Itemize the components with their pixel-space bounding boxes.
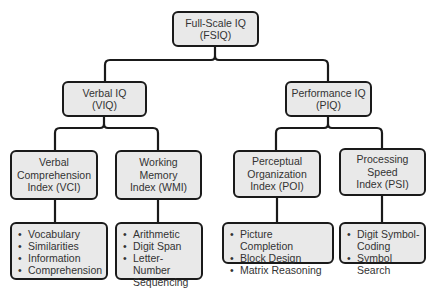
node-poi: Perceptual Organization Index (POI)	[233, 150, 321, 198]
list-item: Digit Span	[123, 240, 197, 252]
node-wmi: Working Memory Index (WMI)	[115, 150, 202, 200]
node-label: Verbal Comprehension Index (VCI)	[17, 156, 91, 194]
list-item: Similarities	[18, 240, 102, 252]
node-piq: Performance IQ (PIQ)	[285, 81, 372, 117]
node-label: Working Memory Index (WMI)	[130, 156, 187, 194]
node-psi: Processing Speed Index (PSI)	[339, 148, 426, 196]
list-item: Vocabulary	[18, 228, 102, 240]
node-fsiq: Full-Scale IQ (FSIQ)	[172, 11, 259, 47]
node-label: Full-Scale IQ (FSIQ)	[185, 17, 246, 42]
node-label: Verbal IQ (VIQ)	[83, 87, 127, 112]
list-item: Letter-Number Sequencing	[123, 252, 197, 288]
subtest-list-vci: Vocabulary Similarities Information Comp…	[10, 222, 108, 280]
list-item: Matrix Reasoning	[230, 264, 328, 276]
list-item: Picture Completion	[230, 228, 328, 252]
list-item: Block Design	[230, 252, 328, 264]
subtest-list-poi: Picture Completion Block Design Matrix R…	[222, 222, 334, 264]
subtest-list-wmi: Arithmetic Digit Span Letter-Number Sequ…	[115, 222, 203, 280]
node-vci: Verbal Comprehension Index (VCI)	[10, 150, 98, 200]
node-label: Performance IQ (PIQ)	[291, 87, 365, 112]
list-item: Information	[18, 252, 102, 264]
subtest-list-psi: Digit Symbol- Coding Symbol Search	[339, 222, 426, 264]
list-item: Digit Symbol- Coding	[347, 228, 420, 252]
list-item: Symbol Search	[347, 252, 420, 276]
list-item: Comprehension	[18, 264, 102, 276]
node-viq: Verbal IQ (VIQ)	[62, 81, 147, 117]
list-item: Arithmetic	[123, 228, 197, 240]
node-label: Perceptual Organization Index (POI)	[247, 155, 307, 193]
node-label: Processing Speed Index (PSI)	[356, 153, 409, 191]
